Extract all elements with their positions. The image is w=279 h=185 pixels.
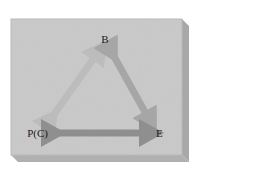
node-label-pc: P(C) [27, 127, 48, 140]
beveled-panel [11, 19, 189, 162]
panel-right-side [182, 19, 189, 162]
triangular-relationship-diagram: B P(C) E [0, 0, 279, 185]
panel-bottom-side [11, 155, 189, 162]
node-label-e: E [156, 127, 163, 139]
figure-container: B P(C) E [0, 0, 279, 185]
node-label-b: B [101, 33, 108, 45]
